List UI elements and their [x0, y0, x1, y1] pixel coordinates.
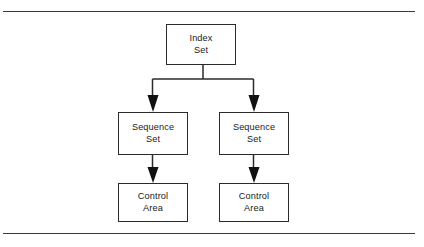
arrowhead-seq-left [148, 95, 159, 112]
node-control-area-left-line1: Control [138, 191, 168, 203]
node-control-area-right: Control Area [219, 183, 289, 222]
node-sequence-set-left: Sequence Set [118, 112, 188, 155]
arrowhead-ctrl-left [148, 167, 159, 183]
node-control-area-right-line2: Area [244, 203, 264, 215]
node-sequence-set-right-line1: Sequence [233, 122, 275, 134]
figure-canvas: Index Set Sequence Set Sequence Set Cont… [0, 0, 424, 247]
node-index-set-line2: Set [194, 45, 208, 57]
node-sequence-set-right-line2: Set [247, 134, 261, 146]
node-sequence-set-left-line1: Sequence [132, 122, 174, 134]
bottom-horizontal-rule [3, 233, 415, 234]
node-control-area-right-line1: Control [239, 191, 269, 203]
node-sequence-set-left-line2: Set [146, 134, 160, 146]
node-control-area-left: Control Area [118, 183, 188, 222]
node-index-set: Index Set [166, 24, 236, 65]
arrowhead-ctrl-right [249, 167, 260, 183]
node-index-set-line1: Index [190, 33, 213, 45]
arrowhead-seq-right [249, 95, 260, 112]
node-control-area-left-line2: Area [143, 203, 163, 215]
node-sequence-set-right: Sequence Set [219, 112, 289, 155]
